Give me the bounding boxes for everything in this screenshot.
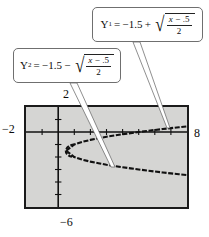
fraction-y2-denominator: 2 <box>96 67 101 77</box>
radicand-y1: x − .5 2 <box>165 13 195 37</box>
radical-y2: √ x − .5 2 <box>74 54 115 78</box>
callout-y1: Y1 = −1.5 + √ x − .5 2 <box>92 7 203 42</box>
equation-y1-equals: = <box>114 19 120 30</box>
radicand-y2: x − .5 2 <box>84 54 114 78</box>
equation-y2-subscript: 2 <box>28 62 32 69</box>
equation-y1-operator: + <box>145 19 151 30</box>
equation-y1: Y1 = −1.5 + √ x − .5 2 <box>100 13 194 37</box>
fraction-y2: x − .5 2 <box>86 56 111 78</box>
equation-y2-equals: = <box>34 60 40 71</box>
axes <box>26 107 187 207</box>
label-ymin: −6 <box>60 216 73 228</box>
fraction-y1-numerator: x − .5 <box>167 15 192 26</box>
equation-y1-constant: −1.5 <box>122 19 142 30</box>
plot-area <box>26 107 187 207</box>
curve-y2 <box>66 151 187 175</box>
equation-y2-function: Y <box>20 60 28 71</box>
callout-y2: Y2 = −1.5 − √ x − .5 2 <box>13 48 121 83</box>
radical-sign-icon: √ <box>75 54 84 78</box>
equation-y1-subscript: 1 <box>108 21 112 28</box>
equation-y2-operator: − <box>64 60 70 71</box>
radical-sign-icon: √ <box>155 13 164 37</box>
equation-y2-constant: −1.5 <box>42 60 62 71</box>
curve-y1 <box>66 127 187 151</box>
fraction-y2-numerator: x − .5 <box>86 56 111 67</box>
label-ymax: 2 <box>63 88 69 100</box>
equation-y1-function: Y <box>100 19 108 30</box>
figure-root: Y1 = −1.5 + √ x − .5 2 Y2 = −1.5 − √ <box>0 0 209 237</box>
fraction-y1: x − .5 2 <box>167 15 192 37</box>
label-xmin: −2 <box>2 123 15 135</box>
equation-y2: Y2 = −1.5 − √ x − .5 2 <box>20 54 114 78</box>
fraction-y1-denominator: 2 <box>177 26 182 36</box>
radical-y1: √ x − .5 2 <box>154 13 195 37</box>
label-xmax: 8 <box>194 127 200 139</box>
calculator-screen <box>24 105 189 209</box>
